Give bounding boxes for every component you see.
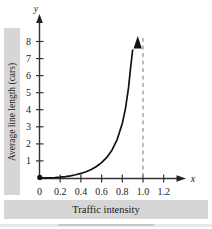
data-curve	[40, 50, 133, 178]
x-tick-label-3: 0.6	[95, 186, 108, 197]
x-axis-arrowhead-icon	[177, 175, 187, 182]
y-axis-symbol-label: y	[33, 3, 39, 14]
x-tick-label-1: 0.2	[54, 186, 67, 197]
y-tick-label-3: 3	[26, 121, 31, 132]
y-tick-label-7: 7	[26, 53, 31, 64]
figure-container: Average line length (cars) Traffic inten…	[0, 0, 212, 229]
x-tick-label-5: 1.0	[137, 186, 150, 197]
origin-point-marker	[37, 175, 42, 180]
chart-plot-area: y x 0 0.2 0.4 0.6 0.8 1.0 1.2 1	[0, 0, 212, 229]
y-tick-label-1: 1	[26, 155, 31, 166]
x-tick-label-6: 1.2	[157, 186, 170, 197]
x-axis-symbol-label: x	[190, 173, 196, 184]
x-tick-label-4: 0.8	[116, 186, 129, 197]
y-tick-label-6: 6	[26, 70, 31, 81]
x-tick-label-0: 0	[37, 186, 42, 197]
y-tick-label-8: 8	[26, 36, 31, 47]
curve-arrowhead-icon	[134, 36, 142, 49]
y-tick-label-5: 5	[26, 87, 31, 98]
y-tick-label-4: 4	[26, 104, 31, 115]
y-axis-arrowhead-icon	[36, 14, 43, 23]
x-tick-label-2: 0.4	[75, 186, 88, 197]
y-tick-label-2: 2	[26, 138, 31, 149]
